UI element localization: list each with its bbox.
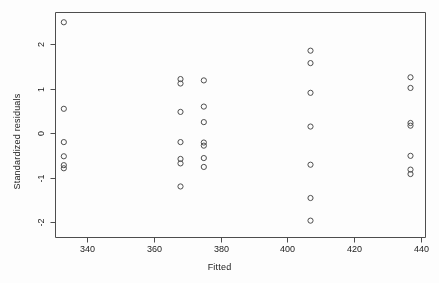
x-axis-title: Fitted bbox=[0, 262, 439, 272]
y-axis-title: Standardized residuals bbox=[10, 0, 24, 283]
residuals-scatter-plot: Fitted Standardized residuals bbox=[0, 0, 439, 283]
plot-drawing-area bbox=[0, 0, 439, 283]
